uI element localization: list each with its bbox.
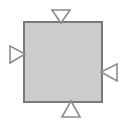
diagram-canvas: Square with four inward-pointing triangl… (0, 0, 125, 129)
shape-diagram (0, 0, 125, 129)
central-square[interactable] (24, 22, 102, 102)
